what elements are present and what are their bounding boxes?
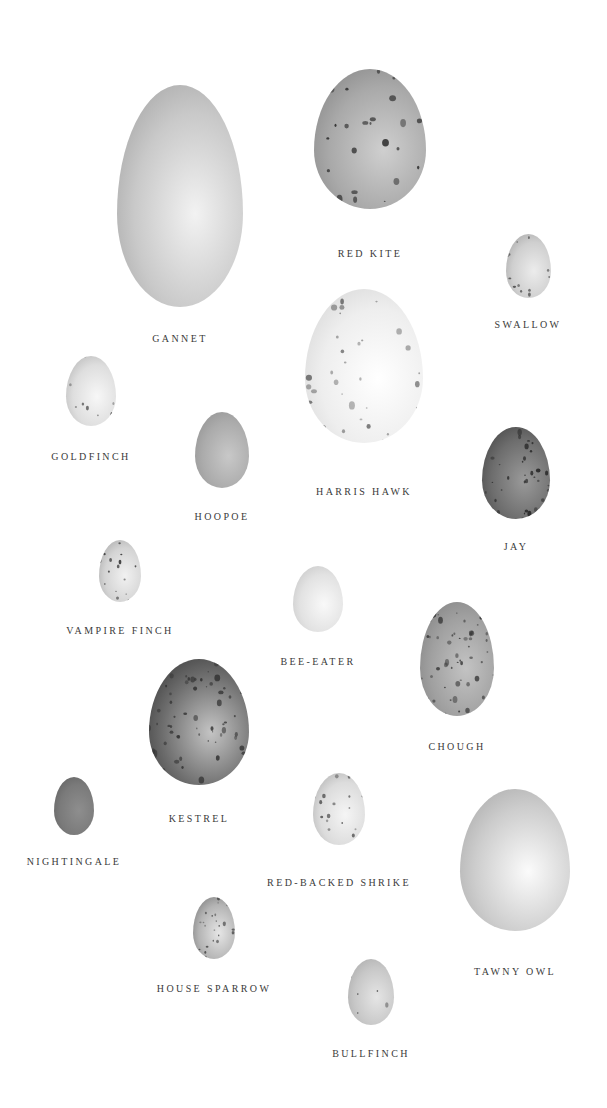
egg-kestrel bbox=[149, 659, 249, 785]
egg-red-backed-shrike bbox=[313, 773, 365, 845]
egg-label-house-sparrow: HOUSE SPARROW bbox=[157, 983, 271, 994]
egg-label-harris-hawk: HARRIS HAWK bbox=[316, 486, 412, 497]
egg-label-tawny-owl: TAWNY OWL bbox=[474, 966, 556, 977]
egg-house-sparrow bbox=[193, 897, 235, 959]
egg-label-bee-eater: BEE-EATER bbox=[281, 656, 356, 667]
speckle-pattern bbox=[482, 427, 550, 519]
egg-hoopoe bbox=[195, 412, 249, 488]
egg-label-swallow: SWALLOW bbox=[495, 319, 562, 330]
egg-vampire-finch bbox=[99, 540, 141, 602]
egg-label-jay: JAY bbox=[504, 541, 529, 552]
egg-label-bullfinch: BULLFINCH bbox=[332, 1048, 410, 1059]
speckle-pattern bbox=[420, 602, 494, 716]
speckle-pattern bbox=[149, 659, 249, 785]
egg-red-kite bbox=[314, 69, 426, 209]
egg-bullfinch bbox=[348, 959, 394, 1025]
egg-goldfinch bbox=[66, 356, 116, 426]
egg-label-goldfinch: GOLDFINCH bbox=[51, 451, 130, 462]
egg-label-red-backed-shrike: RED-BACKED SHRIKE bbox=[267, 877, 411, 888]
egg-swallow bbox=[506, 234, 551, 298]
egg-label-nightingale: NIGHTINGALE bbox=[27, 856, 122, 867]
egg-label-red-kite: RED KITE bbox=[338, 248, 402, 259]
egg-bee-eater bbox=[293, 566, 343, 632]
speckle-pattern bbox=[193, 897, 235, 959]
egg-chough bbox=[420, 602, 494, 716]
speckle-pattern bbox=[305, 289, 423, 443]
speckle-pattern bbox=[506, 234, 551, 298]
speckle-pattern bbox=[314, 69, 426, 209]
egg-label-kestrel: KESTREL bbox=[169, 813, 230, 824]
egg-gannet bbox=[117, 85, 243, 307]
egg-label-vampire-finch: VAMPIRE FINCH bbox=[66, 625, 173, 636]
egg-plate: GANNETRED KITESWALLOWGOLDFINCHHOOPOEHARR… bbox=[0, 0, 607, 1108]
speckle-pattern bbox=[99, 540, 141, 602]
egg-jay bbox=[482, 427, 550, 519]
egg-harris-hawk bbox=[305, 289, 423, 443]
egg-label-hoopoe: HOOPOE bbox=[195, 511, 250, 522]
speckle-pattern bbox=[313, 773, 365, 845]
egg-label-chough: CHOUGH bbox=[428, 741, 485, 752]
speckle-pattern bbox=[66, 356, 116, 426]
egg-label-gannet: GANNET bbox=[152, 333, 208, 344]
speckle-pattern bbox=[348, 959, 394, 1025]
egg-nightingale bbox=[54, 777, 94, 835]
egg-tawny-owl bbox=[460, 789, 570, 931]
